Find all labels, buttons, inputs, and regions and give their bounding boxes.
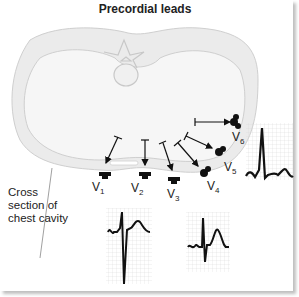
ecg-strip-1 <box>106 208 152 284</box>
lead-label-v5: V5 <box>224 161 236 176</box>
electrode-v2 <box>139 172 151 179</box>
lead-label-v3: V3 <box>167 188 179 203</box>
caption-line-3: chest cavity <box>8 212 68 225</box>
electrode-v3 <box>168 177 180 184</box>
diagram-canvas <box>0 0 299 297</box>
ecg-strip-3 <box>246 123 293 180</box>
ecg-strip-2 <box>186 212 230 272</box>
caption-line-1: Cross <box>8 186 68 199</box>
cross-section-caption: Cross section of chest cavity <box>8 186 68 225</box>
lead-label-v1: V1 <box>92 181 104 196</box>
lead-label-v4: V4 <box>207 180 219 195</box>
caption-line-2: section of <box>8 199 68 212</box>
lead-label-v2: V2 <box>131 182 143 197</box>
electrode-v1 <box>99 172 111 179</box>
lead-label-v6: V6 <box>232 131 244 146</box>
